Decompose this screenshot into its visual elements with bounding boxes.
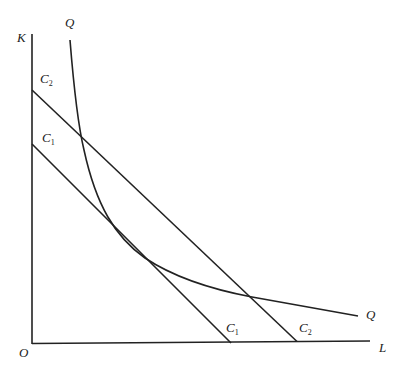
isoquant-label-top: Q <box>65 15 75 30</box>
origin-label: O <box>19 345 29 360</box>
isoquant-isocost-diagram: K L O Q Q C2 C1 C1 C2 <box>0 0 402 371</box>
isocost-line-c1 <box>32 144 231 343</box>
l-axis <box>32 341 370 344</box>
k-axis-label: K <box>16 30 27 45</box>
isocost-c2-k-label: C2 <box>40 71 53 88</box>
l-axis-label: L <box>378 340 386 355</box>
isoquant-curve-q <box>70 40 358 316</box>
isoquant-label-right: Q <box>366 307 376 322</box>
isocost-c1-k-label: C1 <box>42 130 55 147</box>
isocost-c2-l-label: C2 <box>299 320 312 337</box>
isocost-line-c2 <box>32 90 297 342</box>
isocost-c1-l-label: C1 <box>226 320 239 337</box>
